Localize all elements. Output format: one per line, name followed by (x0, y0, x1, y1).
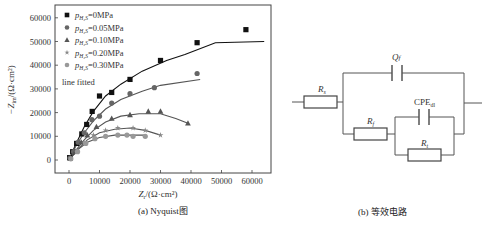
marker-square (109, 90, 114, 95)
x-axis-ticks: 0100002000030000400005000060000 (67, 170, 263, 186)
marker-square (127, 77, 132, 82)
marker-square (97, 93, 102, 98)
x-tick-label: 0 (67, 176, 71, 186)
nyquist-plot: 0100002000030000400005000060000 01000020… (6, 5, 271, 200)
marker-circle (89, 117, 94, 122)
y-tick-label: 0 (47, 155, 51, 165)
marker-triangle (109, 115, 115, 120)
marker-circle (195, 71, 200, 76)
legend-note: line fitted (62, 77, 96, 87)
label-cpe-dl: CPEdl (414, 97, 436, 108)
marker-circle (103, 134, 108, 139)
label-qf: Qf (392, 52, 402, 62)
label-rs: Rs (317, 84, 327, 95)
marker-square (195, 40, 200, 45)
marker-circle (75, 149, 80, 154)
marker-triangle (158, 108, 164, 113)
x-axis-label: Zr/(Ω·cm²) (139, 189, 178, 200)
y-tick-label: 50000 (30, 37, 51, 47)
label-rt: Rt (420, 138, 429, 149)
label-rf: Rf (366, 116, 376, 127)
marker-square (243, 27, 248, 32)
marker-circle (65, 25, 70, 30)
marker-circle (130, 134, 135, 139)
x-tick-label: 10000 (89, 176, 110, 186)
legend-item: pH₂S=0.05MPa (74, 23, 124, 34)
marker-triangle (64, 37, 69, 42)
marker-circle (124, 133, 129, 138)
marker-star (115, 125, 121, 131)
caption-circuit: (b) 等效电路 (358, 205, 407, 218)
resistor-rf (354, 128, 387, 140)
y-tick-label: 30000 (30, 84, 51, 94)
marker-circle (109, 101, 114, 106)
y-axis-ticks: 0100002000030000400005000060000 (30, 13, 58, 165)
legend-item: pH₂S=0.10MPa (74, 35, 124, 46)
y-tick-label: 10000 (30, 131, 51, 141)
resistor-rt (408, 149, 441, 161)
resistor-rs (304, 96, 337, 108)
y-tick-label: 60000 (30, 13, 51, 23)
marker-triangle (145, 108, 151, 113)
marker-star (64, 50, 69, 55)
x-tick-label: 60000 (241, 176, 262, 186)
marker-circle (68, 156, 73, 161)
marker-circle (143, 134, 148, 139)
legend-item: pH₂S=0.20MPa (74, 48, 124, 59)
equivalent-circuit (292, 65, 482, 161)
marker-circle (92, 136, 97, 141)
marker-circle (97, 114, 102, 119)
marker-circle (152, 85, 157, 90)
y-tick-label: 40000 (30, 60, 51, 70)
x-tick-label: 20000 (119, 176, 140, 186)
x-tick-label: 50000 (211, 176, 232, 186)
marker-square (84, 122, 89, 127)
legend-item: pH₂S=0.30MPa (74, 60, 124, 71)
marker-circle (83, 141, 88, 146)
marker-square (65, 13, 70, 18)
marker-square (158, 58, 163, 63)
caption-nyquist: (a) Nyquist图 (138, 204, 188, 217)
x-tick-label: 30000 (150, 176, 171, 186)
marker-circle (115, 133, 120, 138)
legend: pH₂S=0MPapH₂S=0.05MPapH₂S=0.10MPapH₂S=0.… (62, 10, 124, 87)
figure: 0100002000030000400005000060000 01000020… (0, 0, 484, 229)
y-tick-label: 20000 (30, 108, 51, 118)
legend-item: pH₂S=0MPa (74, 10, 113, 21)
marker-circle (127, 91, 132, 96)
marker-circle (65, 63, 70, 68)
x-tick-label: 40000 (180, 176, 201, 186)
marker-square (90, 109, 95, 114)
y-axis-label: −Zim/(Ω·cm²) (6, 65, 17, 114)
